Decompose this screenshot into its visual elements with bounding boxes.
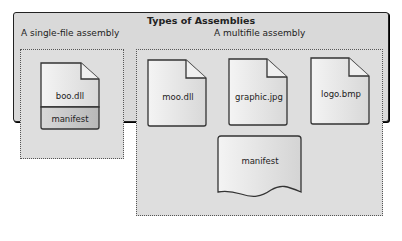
multifile-manifest-label: manifest xyxy=(216,156,304,166)
moo-dll-label: moo.dll xyxy=(146,92,210,102)
multifile-heading: A multifile assembly xyxy=(214,28,305,38)
boo-dll-file: boo.dll manifest xyxy=(39,61,101,130)
boo-dll-label: boo.dll xyxy=(39,91,101,101)
logo-bmp-file: logo.bmp xyxy=(309,56,373,128)
document-wave-icon xyxy=(215,134,305,200)
types-of-assemblies-panel: Types of Assemblies A single-file assemb… xyxy=(13,12,389,122)
graphic-jpg-file: graphic.jpg xyxy=(227,57,291,129)
diagram-title: Types of Assemblies xyxy=(14,15,388,26)
single-manifest-label: manifest xyxy=(39,114,101,124)
single-file-heading: A single-file assembly xyxy=(21,28,119,38)
logo-bmp-label: logo.bmp xyxy=(309,89,373,99)
multifile-manifest: manifest xyxy=(216,135,304,199)
single-file-group: boo.dll manifest xyxy=(20,49,124,159)
multifile-group: moo.dll graphic.jpg logo.bmp manife xyxy=(136,49,383,216)
graphic-jpg-label: graphic.jpg xyxy=(227,92,291,102)
moo-dll-file: moo.dll xyxy=(146,58,210,130)
